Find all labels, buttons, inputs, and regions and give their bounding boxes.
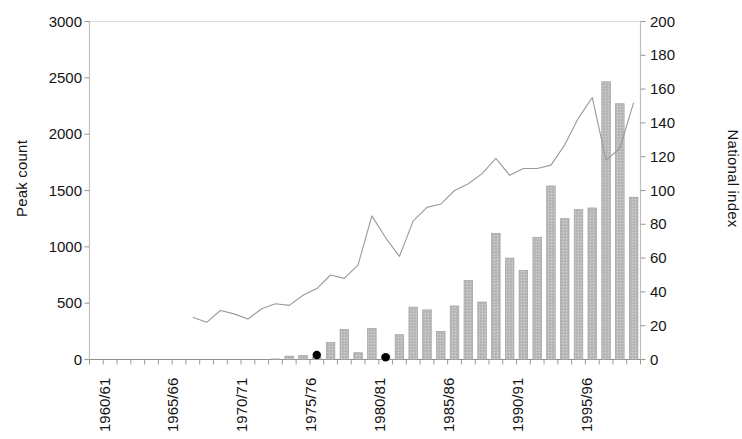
bar <box>478 302 487 359</box>
bar <box>450 306 459 360</box>
bar <box>395 335 404 360</box>
bar <box>560 219 569 360</box>
point-marker <box>381 353 389 361</box>
bar <box>616 104 625 360</box>
bar <box>602 82 611 360</box>
bar <box>409 307 418 359</box>
plot-area <box>0 0 742 439</box>
bar <box>519 270 528 359</box>
bar <box>299 356 308 360</box>
bar <box>423 310 432 360</box>
bar <box>436 331 445 359</box>
point-marker <box>313 351 321 359</box>
bar <box>368 329 377 360</box>
bar <box>533 237 542 359</box>
bar <box>285 356 294 359</box>
bar <box>574 210 583 360</box>
bar <box>271 359 280 360</box>
bar <box>629 197 638 359</box>
bar <box>547 186 556 360</box>
bar-series <box>271 82 638 360</box>
bar <box>464 281 473 360</box>
bar <box>505 258 514 359</box>
bar <box>588 208 597 360</box>
bar <box>326 343 335 360</box>
bar <box>354 353 363 360</box>
chart-figure: Peak count National index 05001000150020… <box>0 0 742 439</box>
bar <box>492 233 501 359</box>
bar <box>340 330 349 360</box>
